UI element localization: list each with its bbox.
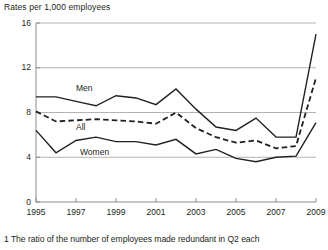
x-axis-label-1995: 1995 bbox=[19, 207, 53, 217]
y-axis-label-8: 8 bbox=[13, 107, 31, 117]
series-label-all: All bbox=[76, 122, 85, 132]
x-axis-label-2005: 2005 bbox=[219, 207, 253, 217]
x-axis-label-2003: 2003 bbox=[179, 207, 213, 217]
footnote: 1 The ratio of the number of employees m… bbox=[4, 234, 260, 244]
series-label-women: Women bbox=[80, 147, 109, 157]
x-axis-label-2007: 2007 bbox=[259, 207, 293, 217]
y-axis-label-4: 4 bbox=[13, 152, 31, 162]
chart-figure: Rates per 1,000 employees 0481216 199519… bbox=[0, 0, 328, 250]
series-label-men: Men bbox=[76, 83, 93, 93]
x-axis-label-2001: 2001 bbox=[139, 207, 173, 217]
y-axis-label-12: 12 bbox=[13, 62, 31, 72]
data-series-group bbox=[36, 34, 316, 162]
x-axis-label-1999: 1999 bbox=[99, 207, 133, 217]
y-axis-label-16: 16 bbox=[13, 18, 31, 28]
y-axis-label-0: 0 bbox=[13, 197, 31, 207]
x-axis-label-2009: 2009 bbox=[299, 207, 328, 217]
x-axis-label-1997: 1997 bbox=[59, 207, 93, 217]
